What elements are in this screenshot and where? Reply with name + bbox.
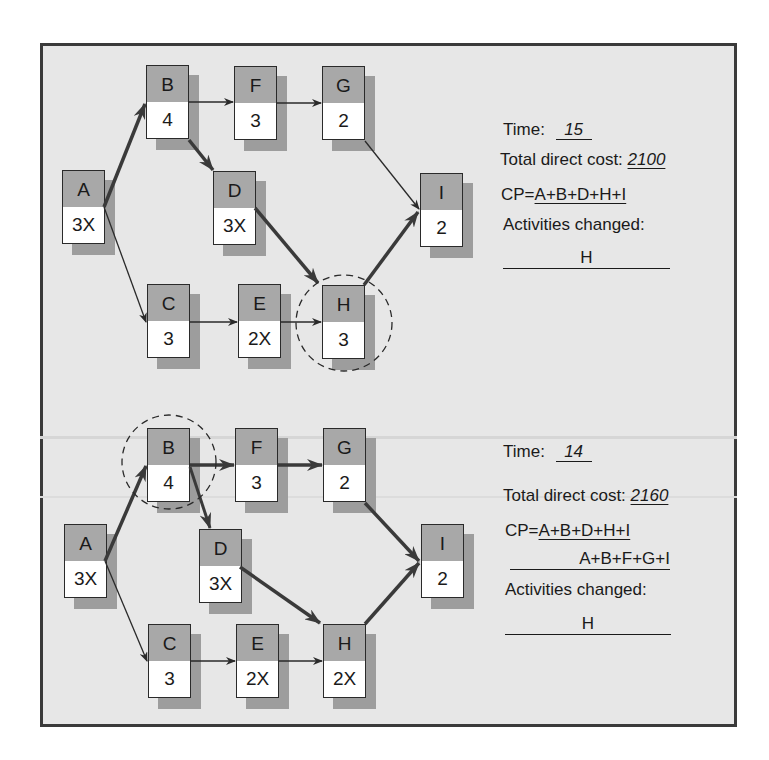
top-edges (104, 102, 419, 371)
time-value: 14 (556, 443, 592, 462)
cost-line: Total direct cost: 2100 (500, 150, 665, 170)
cp-path-2: A+B+F+G+I (510, 549, 670, 570)
cp-path: A+B+D+H+I (539, 521, 631, 540)
cp-label: CP= (505, 521, 539, 540)
activities-value: H (503, 248, 670, 269)
highlight-circle-B (122, 415, 216, 509)
cp-label: CP= (501, 185, 535, 204)
cost-value: 2160 (631, 486, 669, 505)
time-value: 15 (556, 121, 592, 140)
cp-line: CP=A+B+D+H+I (501, 185, 626, 205)
activities-value: H (505, 614, 671, 635)
network-arrows (0, 0, 769, 760)
bottom-edges (105, 415, 419, 661)
time-label: Time: (503, 120, 545, 139)
activities-label: Activities changed: (503, 215, 645, 235)
time-line: Time: 14 (503, 442, 592, 462)
cost-line: Total direct cost: 2160 (503, 486, 668, 506)
cost-label: Total direct cost: (503, 486, 626, 505)
cost-label: Total direct cost: (500, 150, 623, 169)
time-line: Time: 15 (503, 120, 592, 140)
cp-line: CP=A+B+D+H+I (505, 521, 630, 541)
cp-path: A+B+D+H+I (535, 185, 627, 204)
activities-label: Activities changed: (505, 580, 647, 600)
cost-value: 2100 (628, 150, 666, 169)
time-label: Time: (503, 442, 545, 461)
highlight-circle-H (296, 275, 392, 371)
